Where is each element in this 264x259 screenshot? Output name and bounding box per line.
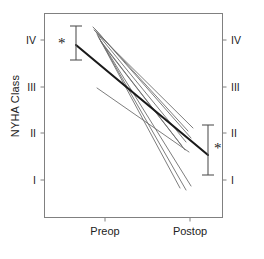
y-axis-ticks-right	[223, 40, 227, 180]
x-tick-postop: Postop	[160, 225, 220, 237]
error-bar-postop	[202, 125, 214, 175]
y-tick-left-II: II	[20, 127, 36, 139]
patient-line	[98, 36, 186, 190]
patient-line	[94, 30, 193, 128]
y-tick-right-IV: IV	[231, 34, 247, 46]
y-tick-right-II: II	[231, 127, 247, 139]
preop-significance-star: *	[58, 36, 66, 51]
postop-significance-star: *	[214, 141, 222, 156]
y-tick-left-I: I	[20, 174, 36, 186]
plot-frame	[45, 14, 223, 218]
y-axis-ticks-left	[41, 40, 45, 180]
y-tick-right-I: I	[231, 174, 247, 186]
y-tick-left-III: III	[20, 81, 36, 93]
plot-canvas	[0, 0, 264, 259]
x-tick-preop: Preop	[75, 225, 135, 237]
y-axis-label: NYHA Class	[9, 58, 21, 154]
nyha-class-chart: NYHA Class IV III II I IV III II I Preop…	[0, 0, 264, 259]
x-axis-ticks	[105, 218, 190, 222]
patient-line	[101, 42, 185, 150]
y-tick-left-IV: IV	[20, 34, 36, 46]
error-bar-preop	[70, 26, 82, 60]
y-tick-right-III: III	[231, 81, 247, 93]
mean-line	[76, 45, 208, 155]
patient-lines	[93, 27, 193, 190]
